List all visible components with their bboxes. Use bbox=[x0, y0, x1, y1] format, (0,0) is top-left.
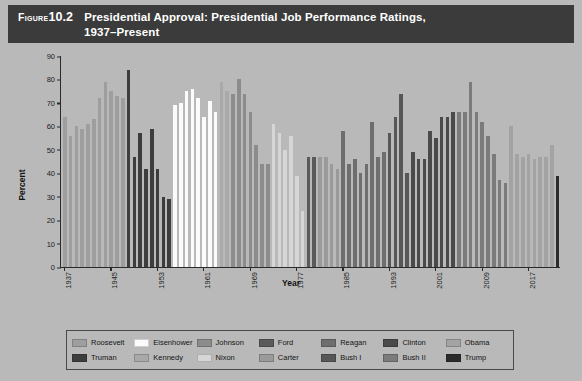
bar-1978 bbox=[301, 211, 305, 267]
x-axis-label: Year bbox=[8, 278, 574, 288]
bar-1997 bbox=[411, 152, 415, 267]
x-tick-mark-1993 bbox=[389, 267, 390, 271]
bar-1976 bbox=[289, 136, 293, 267]
bar-1998 bbox=[417, 159, 421, 267]
bar-1967 bbox=[237, 79, 241, 267]
bar-1966 bbox=[231, 94, 235, 267]
legend-label: Truman bbox=[91, 353, 117, 362]
bar-1979 bbox=[307, 157, 311, 267]
figure-title-line-2: 1937–Present bbox=[18, 25, 564, 40]
figure-title-text: Presidential Approval: Presidential Job … bbox=[84, 11, 426, 23]
legend-label: Johnson bbox=[216, 338, 244, 347]
bar-1952 bbox=[150, 129, 154, 267]
bar-2009 bbox=[480, 122, 484, 267]
bar-1995 bbox=[399, 94, 403, 267]
bar-1940 bbox=[80, 129, 84, 267]
bar-2013 bbox=[504, 183, 508, 267]
bar-1938 bbox=[69, 136, 73, 267]
legend-label: Carter bbox=[278, 353, 299, 362]
bar-2018 bbox=[533, 159, 537, 267]
x-tick-mark-1937 bbox=[64, 267, 65, 271]
bar-1980 bbox=[312, 157, 316, 267]
x-tick-mark-1961 bbox=[203, 267, 204, 271]
bar-2016 bbox=[521, 157, 525, 267]
bar-1961 bbox=[202, 117, 206, 267]
legend-label: Clinton bbox=[402, 338, 425, 347]
x-tick-mark-1945 bbox=[110, 267, 111, 271]
bar-2008 bbox=[475, 112, 479, 267]
figure-container: Figure10.2Presidential Approval: Preside… bbox=[0, 0, 582, 381]
x-tick-mark-1953 bbox=[157, 267, 158, 271]
bar-1939 bbox=[75, 126, 79, 267]
legend-label: Trump bbox=[465, 353, 486, 362]
bar-1977 bbox=[295, 176, 299, 267]
bar-1944 bbox=[104, 82, 108, 267]
y-axis-label: Percent bbox=[17, 169, 27, 200]
legend-item-ford: Ford bbox=[259, 335, 321, 350]
bar-2021 bbox=[550, 145, 554, 267]
bar-1937 bbox=[63, 117, 67, 267]
legend-item-eisenhower: Eisenhower bbox=[134, 335, 196, 350]
bar-1954 bbox=[162, 197, 166, 267]
legend-label: Reagan bbox=[340, 338, 366, 347]
legend-swatch-icon bbox=[197, 354, 212, 362]
legend-item-bush-i: Bush I bbox=[321, 350, 383, 365]
bar-1957 bbox=[179, 103, 183, 267]
x-tick-mark-1985 bbox=[342, 267, 343, 271]
bar-1985 bbox=[341, 131, 345, 267]
figure-title-bar: Figure10.2Presidential Approval: Preside… bbox=[8, 5, 574, 43]
bar-2005 bbox=[457, 112, 461, 267]
bar-2001 bbox=[434, 138, 438, 267]
bar-1991 bbox=[376, 157, 380, 267]
bar-1973 bbox=[272, 124, 276, 267]
legend-label: Nixon bbox=[216, 353, 235, 362]
bar-1989 bbox=[365, 164, 369, 267]
y-tick-80: 80 bbox=[15, 75, 61, 84]
bar-2007 bbox=[469, 82, 473, 267]
bar-1942 bbox=[92, 119, 96, 267]
bar-series bbox=[61, 56, 560, 267]
bar-1943 bbox=[98, 98, 102, 267]
bar-1994 bbox=[394, 117, 398, 267]
legend-swatch-icon bbox=[197, 339, 212, 347]
bar-1993 bbox=[388, 133, 392, 267]
bar-1983 bbox=[330, 164, 334, 267]
bar-1986 bbox=[347, 164, 351, 267]
bar-2012 bbox=[498, 180, 502, 267]
legend-item-nixon: Nixon bbox=[197, 350, 259, 365]
bar-2003 bbox=[446, 117, 450, 267]
legend-label: Bush II bbox=[402, 353, 425, 362]
bar-1964 bbox=[220, 82, 224, 267]
bar-1971 bbox=[260, 164, 264, 267]
y-tick-20: 20 bbox=[15, 216, 61, 225]
bar-2010 bbox=[486, 136, 490, 267]
y-tick-60: 60 bbox=[15, 122, 61, 131]
chart-panel: 0102030405060708090 19371945195319611969… bbox=[8, 46, 574, 324]
bar-1974 bbox=[278, 133, 282, 267]
bar-1987 bbox=[353, 159, 357, 267]
legend-item-reagan: Reagan bbox=[321, 335, 383, 350]
bar-1972 bbox=[266, 164, 270, 267]
bar-1969 bbox=[249, 112, 253, 267]
bar-slot bbox=[555, 56, 561, 267]
bar-1992 bbox=[382, 152, 386, 267]
legend-swatch-icon bbox=[321, 354, 336, 362]
legend-swatch-icon bbox=[72, 354, 87, 362]
x-tick-mark-1977 bbox=[296, 267, 297, 271]
bar-2004 bbox=[451, 112, 455, 267]
legend-swatch-icon bbox=[321, 339, 336, 347]
bar-1955 bbox=[167, 199, 171, 267]
bar-1965 bbox=[225, 91, 229, 267]
bar-2011 bbox=[492, 154, 496, 267]
plot-area: 0102030405060708090 19371945195319611969… bbox=[60, 56, 560, 268]
legend-swatch-icon bbox=[72, 339, 87, 347]
x-tick-mark-2017 bbox=[528, 267, 529, 271]
bar-1968 bbox=[243, 94, 247, 267]
figure-number: 10.2 bbox=[48, 10, 73, 24]
bar-1947 bbox=[121, 98, 125, 267]
bar-1948 bbox=[127, 70, 131, 267]
legend-item-johnson: Johnson bbox=[197, 335, 259, 350]
bar-1950 bbox=[138, 133, 142, 267]
legend-item-trump: Trump bbox=[446, 350, 508, 365]
legend-label: Bush I bbox=[340, 353, 361, 362]
